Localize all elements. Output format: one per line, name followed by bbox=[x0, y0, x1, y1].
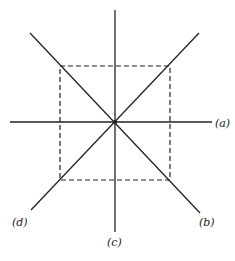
label-d: (d) bbox=[12, 216, 28, 229]
label-c: (c) bbox=[107, 236, 122, 249]
label-b: (b) bbox=[199, 216, 215, 229]
diagram-canvas: (a) (b) (c) (d) bbox=[0, 0, 235, 261]
label-a: (a) bbox=[215, 117, 230, 130]
center-point bbox=[113, 120, 117, 124]
